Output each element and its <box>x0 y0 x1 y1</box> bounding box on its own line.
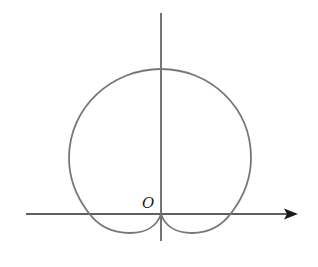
diagram-canvas: O <box>0 0 318 267</box>
origin-label: O <box>142 194 154 212</box>
cardioid-curve <box>69 69 251 233</box>
